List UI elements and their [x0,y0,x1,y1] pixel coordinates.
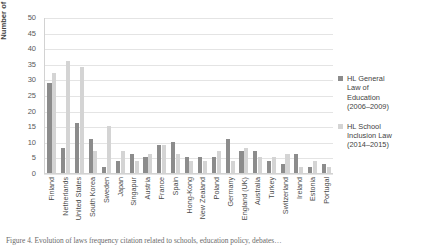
y-tick-label: 0 [32,170,36,178]
bar [61,148,65,173]
bar [231,161,235,173]
x-label-cell: United States [73,176,87,232]
chart-legend: HL General Law of Education (2006–2009)H… [338,74,442,160]
x-tick-label: Estonia [309,177,317,201]
x-label-cell: Finland [45,176,59,232]
bar [189,161,193,173]
x-tick-label: Turkey [268,177,276,199]
y-tick-label: 10 [28,139,36,147]
bar [171,142,175,173]
x-label-cell: Ireland [293,176,307,232]
bar-group [319,18,333,173]
bar-group [127,18,141,173]
bar [308,167,312,173]
x-label-cell: Portugal [320,176,334,232]
bar [130,154,134,173]
x-label-cell: Estonia [307,176,321,232]
x-tick-label: Germany [227,177,235,207]
x-tick-label: Poland [213,177,221,199]
bar-groups [45,18,333,173]
x-tick-label: Australia [254,177,262,205]
x-tick-label: England (UK) [241,177,249,220]
x-label-cell: Sweden [100,176,114,232]
x-tick-label: Spain [172,177,180,195]
bar-group [45,18,59,173]
bar-group [114,18,128,173]
x-label-cell: Turkey [265,176,279,232]
y-tick-label: 35 [28,61,36,69]
x-label-cell: Poland [210,176,224,232]
bar [89,139,93,173]
bar [47,83,51,173]
bar [102,167,106,173]
bar [157,145,161,173]
x-tick-label: Japan [117,177,125,197]
y-tick-label: 30 [28,76,36,84]
bar-group [223,18,237,173]
x-label-cell: Hong-Kong [183,176,197,232]
y-tick-label: 25 [28,92,36,100]
bar-group [72,18,86,173]
bar [66,61,70,173]
figure-caption: Figure 4. Evolution of laws frequency ci… [6,236,441,245]
bar-group [196,18,210,173]
x-tick-label: Netherlands [62,177,70,216]
x-label-cell: South Korea [86,176,100,232]
gridline [44,174,333,175]
x-tick-label: France [158,177,166,199]
x-tick-label: New Zealand [199,177,207,219]
bar [212,157,216,173]
bar [281,164,285,173]
bar-group [237,18,251,173]
legend-entry: HL School Inclusion Law (2014–2015) [338,122,442,150]
bar-group [100,18,114,173]
bar [217,151,221,173]
x-label-cell: New Zealand [196,176,210,232]
x-tick-label: Ireland [296,177,304,199]
bar-group [155,18,169,173]
bar-group [86,18,100,173]
x-label-cell: Switzerland [279,176,293,232]
bar [75,123,79,173]
x-label-cell: Australia [251,176,265,232]
legend-swatch [338,76,343,81]
x-tick-label: Finland [48,177,56,201]
x-axis-category-labels: FinlandNetherlandsUnited StatesSouth Kor… [45,176,334,232]
bar [52,73,56,173]
bar [93,151,97,173]
x-tick-label: Hong-Kong [186,177,194,213]
bar-group [265,18,279,173]
plot-area [44,18,333,174]
bar [107,126,111,173]
bar-group [59,18,73,173]
bar-group [278,18,292,173]
y-tick-label: 15 [28,123,36,131]
x-tick-label: Portugal [323,177,331,204]
bar [135,161,139,173]
bar [294,154,298,173]
legend-swatch [338,124,343,129]
bar [176,154,180,173]
y-tick-label: 20 [28,108,36,116]
bar [148,154,152,173]
legend-entry: HL General Law of Education (2006–2009) [338,74,442,112]
y-tick-label: 50 [28,14,36,22]
x-label-cell: England (UK) [238,176,252,232]
bar-group [306,18,320,173]
bar [322,164,326,173]
bar [285,154,289,173]
bar [80,67,84,173]
x-label-cell: Germany [224,176,238,232]
y-tick-label: 40 [28,45,36,53]
bar [244,148,248,173]
bar [203,161,207,173]
bar [143,157,147,173]
bar-group [182,18,196,173]
bar-group [292,18,306,173]
bar-group [251,18,265,173]
x-tick-label: Switzerland [282,177,290,214]
bar [253,151,257,173]
bar [116,161,120,173]
bar-group [141,18,155,173]
bar [226,139,230,173]
